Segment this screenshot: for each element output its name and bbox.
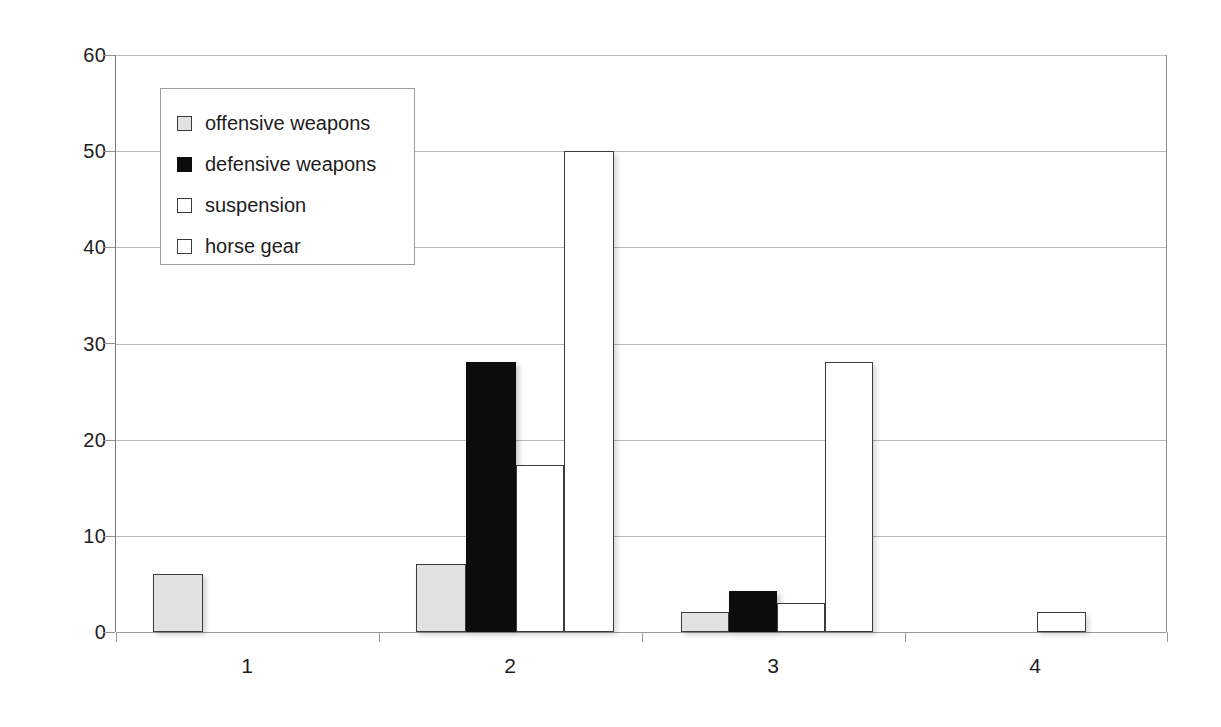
legend-label-horse-gear: horse gear [205, 236, 301, 257]
gridline-0 [116, 632, 1166, 633]
bar-chart: 60 50 40 30 20 10 0 [0, 0, 1221, 727]
x-tick-stub-4 [1167, 632, 1168, 642]
x-tick-label-2: 2 [465, 655, 555, 677]
legend-label-suspension: suspension [205, 195, 306, 216]
x-tick-stub-3 [905, 632, 906, 642]
bar-group3-horse-gear [825, 362, 873, 632]
legend-label-offensive-weapons: offensive weapons [205, 113, 370, 134]
x-tick-label-4: 4 [990, 655, 1080, 677]
legend-swatch-suspension-icon [177, 198, 192, 213]
y-tick-stub-0 [103, 632, 115, 633]
bar-group2-offensive-weapons [416, 564, 466, 632]
bar-group1-offensive-weapons [153, 574, 203, 632]
x-tick-stub-1 [379, 632, 380, 642]
y-tick-stub-60 [103, 55, 115, 56]
gridline-30 [116, 344, 1166, 345]
legend-item-suspension: suspension [177, 185, 414, 226]
y-tick-label-10: 10 [52, 526, 106, 546]
x-tick-stub-2 [642, 632, 643, 642]
x-tick-label-1: 1 [202, 655, 292, 677]
bar-group4-suspension [1037, 612, 1086, 632]
y-tick-label-60: 60 [52, 45, 106, 65]
gridline-20 [116, 440, 1166, 441]
y-tick-label-40: 40 [52, 237, 106, 257]
legend-swatch-defensive-weapons-icon [177, 157, 192, 172]
y-tick-stub-20 [103, 440, 115, 441]
bar-group2-suspension [516, 465, 564, 632]
legend-item-offensive-weapons: offensive weapons [177, 103, 414, 144]
legend-swatch-offensive-weapons-icon [177, 116, 192, 131]
gridline-60 [116, 55, 1166, 56]
bar-group3-offensive-weapons [681, 612, 729, 632]
y-tick-label-50: 50 [52, 141, 106, 161]
legend-item-horse-gear: horse gear [177, 226, 414, 267]
bar-group3-defensive-weapons [729, 591, 777, 632]
legend-swatch-horse-gear-icon [177, 239, 192, 254]
y-tick-label-0: 0 [52, 622, 106, 642]
y-tick-stub-30 [103, 343, 115, 344]
y-tick-label-30: 30 [52, 334, 106, 354]
y-tick-stub-40 [103, 247, 115, 248]
bar-group2-defensive-weapons [466, 362, 516, 632]
bar-group3-suspension [777, 603, 825, 632]
chart-legend: offensive weapons defensive weapons susp… [160, 88, 415, 265]
gridline-10 [116, 536, 1166, 537]
legend-label-defensive-weapons: defensive weapons [205, 154, 376, 175]
x-tick-label-3: 3 [728, 655, 818, 677]
y-tick-stub-50 [103, 151, 115, 152]
bar-group2-horse-gear [564, 151, 614, 632]
y-tick-stub-10 [103, 536, 115, 537]
y-tick-label-20: 20 [52, 430, 106, 450]
x-tick-stub-0 [116, 632, 117, 642]
legend-item-defensive-weapons: defensive weapons [177, 144, 414, 185]
